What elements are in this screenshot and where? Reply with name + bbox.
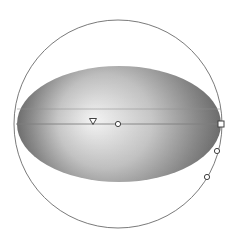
square-handle-icon bbox=[218, 121, 224, 127]
radius-handle[interactable] bbox=[218, 121, 224, 127]
stop-handle-2[interactable] bbox=[204, 174, 209, 179]
stop-handle-1[interactable] bbox=[214, 148, 219, 153]
circle-handle-icon bbox=[204, 174, 209, 179]
gradient-editor-canvas[interactable] bbox=[0, 0, 235, 243]
circle-handle-icon bbox=[214, 148, 219, 153]
center-handle[interactable] bbox=[115, 121, 120, 126]
circle-handle-icon bbox=[115, 121, 120, 126]
